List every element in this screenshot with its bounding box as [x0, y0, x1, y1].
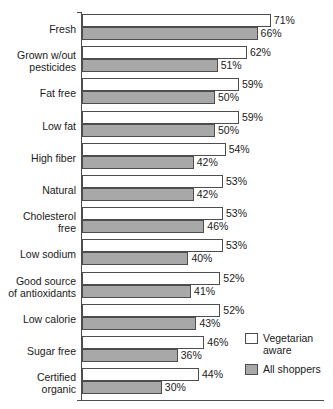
- bar[interactable]: [82, 220, 204, 233]
- x-axis-line: [81, 400, 324, 401]
- category-label: Grown w/outpesticides: [0, 45, 76, 77]
- bar-value-label: 43%: [199, 317, 220, 330]
- bar[interactable]: [82, 188, 194, 201]
- bar-row: 54%: [82, 143, 250, 156]
- bar-group: Fresh71%66%: [0, 13, 333, 45]
- bar-group: Natural53%42%: [0, 174, 333, 206]
- bar[interactable]: [82, 175, 223, 188]
- bar-row: 36%: [82, 349, 202, 362]
- bar-value-label: 53%: [226, 175, 247, 188]
- bar-value-label: 44%: [202, 368, 223, 381]
- bar-group: Grown w/outpesticides62%51%: [0, 45, 333, 77]
- category-label-line: Sugar free: [27, 345, 76, 357]
- bar-value-label: 54%: [229, 143, 250, 156]
- bar-value-label: 50%: [218, 124, 239, 137]
- bar-value-label: 42%: [197, 156, 218, 169]
- bar-pair: 52%41%: [82, 271, 333, 303]
- bar-group: Good sourceof antioxidants52%41%: [0, 271, 333, 303]
- bar[interactable]: [82, 14, 271, 27]
- bar[interactable]: [82, 78, 239, 91]
- bar[interactable]: [82, 27, 258, 40]
- category-label-line: Fresh: [49, 23, 76, 35]
- category-label: Cholesterolfree: [0, 206, 76, 238]
- bar-value-label: 59%: [242, 111, 263, 124]
- legend-item[interactable]: All shoppers: [245, 363, 333, 375]
- bar-value-label: 71%: [274, 14, 295, 27]
- bar-value-label: 46%: [207, 220, 228, 233]
- bar[interactable]: [82, 368, 199, 381]
- category-label-line: free: [58, 222, 76, 234]
- category-label: Natural: [0, 174, 76, 206]
- bar-value-label: 59%: [242, 78, 263, 91]
- bar[interactable]: [82, 143, 226, 156]
- bar[interactable]: [82, 239, 223, 252]
- bar[interactable]: [82, 349, 178, 362]
- bar[interactable]: [82, 317, 196, 330]
- category-label: High fiber: [0, 142, 76, 174]
- bar-value-label: 53%: [226, 207, 247, 220]
- category-label-line: organic: [42, 383, 76, 395]
- category-label: Low calorie: [0, 303, 76, 335]
- bar[interactable]: [82, 285, 191, 298]
- category-label-line: Low fat: [42, 120, 76, 132]
- category-label-line: Low sodium: [20, 248, 76, 260]
- bar-row: 42%: [82, 188, 218, 201]
- bar-pair: 53%46%: [82, 206, 333, 238]
- bar-pair: 62%51%: [82, 45, 333, 77]
- bar-row: 53%: [82, 175, 247, 188]
- bar-row: 53%: [82, 239, 247, 252]
- bar[interactable]: [82, 207, 223, 220]
- bar-row: 66%: [82, 27, 282, 40]
- bar[interactable]: [82, 111, 239, 124]
- bar-row: 30%: [82, 381, 186, 394]
- bar-value-label: 52%: [223, 304, 244, 317]
- bar-row: 62%: [82, 46, 271, 59]
- category-label-line: pesticides: [29, 61, 76, 73]
- bar[interactable]: [82, 124, 215, 137]
- bar-row: 44%: [82, 368, 223, 381]
- bar[interactable]: [82, 336, 204, 349]
- bar-group: Fat free59%50%: [0, 77, 333, 109]
- bar-group: Cholesterolfree53%46%: [0, 206, 333, 238]
- bar-row: 59%: [82, 111, 263, 124]
- category-label: Low fat: [0, 110, 76, 142]
- category-label-line: Natural: [42, 184, 76, 196]
- category-label-line: Grown w/out: [17, 49, 76, 61]
- bar-value-label: 66%: [261, 27, 282, 40]
- bar[interactable]: [82, 272, 220, 285]
- legend-item[interactable]: Vegetarianaware: [245, 332, 333, 356]
- category-label: Sugar free: [0, 335, 76, 367]
- bar-group: Low sodium53%40%: [0, 238, 333, 270]
- bar-pair: 53%42%: [82, 174, 333, 206]
- bar[interactable]: [82, 46, 247, 59]
- category-label-line: of antioxidants: [8, 287, 76, 299]
- bar-value-label: 46%: [207, 336, 228, 349]
- bar-group: High fiber54%42%: [0, 142, 333, 174]
- bar[interactable]: [82, 91, 215, 104]
- legend-label: All shoppers: [263, 363, 321, 375]
- horizontal-bar-chart: Fresh71%66%Grown w/outpesticides62%51%Fa…: [0, 0, 333, 409]
- bar-row: 52%: [82, 304, 244, 317]
- bar[interactable]: [82, 252, 188, 265]
- bar-row: 42%: [82, 156, 218, 169]
- bar-row: 52%: [82, 272, 244, 285]
- bar[interactable]: [82, 156, 194, 169]
- bar[interactable]: [82, 59, 218, 72]
- bar-value-label: 42%: [197, 188, 218, 201]
- category-label: Fat free: [0, 77, 76, 109]
- bar-value-label: 52%: [223, 272, 244, 285]
- bar-row: 51%: [82, 59, 242, 72]
- bar-value-label: 36%: [181, 349, 202, 362]
- bar-row: 53%: [82, 207, 247, 220]
- bar-value-label: 50%: [218, 91, 239, 104]
- bar-value-label: 53%: [226, 239, 247, 252]
- category-label: Certifiedorganic: [0, 367, 76, 399]
- bar[interactable]: [82, 304, 220, 317]
- bar-value-label: 51%: [221, 59, 242, 72]
- category-label: Low sodium: [0, 238, 76, 270]
- category-label-line: Fat free: [40, 87, 76, 99]
- chart-legend: VegetarianawareAll shoppers: [245, 332, 333, 382]
- bar[interactable]: [82, 381, 162, 394]
- bar-value-label: 41%: [194, 285, 215, 298]
- legend-swatch: [245, 364, 258, 375]
